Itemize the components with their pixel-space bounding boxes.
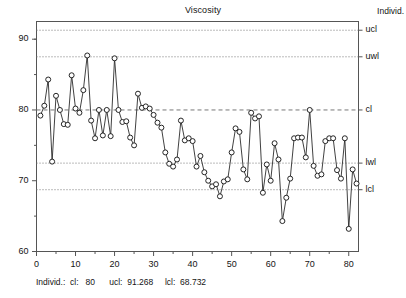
x-tick-label-20: 20	[100, 259, 130, 269]
x-tick-label-40: 40	[178, 259, 208, 269]
right-axis-label-lcl: lcl	[366, 184, 375, 194]
chart-caption: Individ.: cl: 80 ucl: 91.268 lcl: 68.732	[36, 277, 206, 287]
x-tick-label-50: 50	[217, 259, 247, 269]
x-tick-label-0: 0	[22, 259, 52, 269]
right-axis-label-uwl: uwl	[366, 51, 380, 61]
y-tick-label-80: 80	[7, 104, 29, 114]
y-tick-label-70: 70	[7, 175, 29, 185]
data-point-markers	[38, 53, 359, 231]
x-tick-label-10: 10	[61, 259, 91, 269]
x-tick-label-30: 30	[139, 259, 169, 269]
y-tick-label-90: 90	[7, 33, 29, 43]
right-axis-label-lwl: lwl	[366, 157, 377, 167]
right-axis-label-ucl: ucl	[366, 24, 378, 34]
viscosity-control-chart: Viscosity Individ. ucluwlcllwllcl6070809…	[0, 0, 406, 298]
y-tick-label-60: 60	[7, 246, 29, 256]
right-axis-label-cl: cl	[366, 104, 373, 114]
plot-canvas	[0, 0, 406, 298]
x-tick-label-60: 60	[256, 259, 286, 269]
x-tick-label-80: 80	[334, 259, 364, 269]
x-tick-label-70: 70	[295, 259, 325, 269]
